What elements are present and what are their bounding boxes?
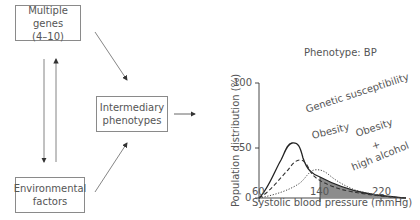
x-tick-60: 60 <box>252 186 265 197</box>
diagram-canvas <box>0 0 420 220</box>
y-tick-0: 0 <box>245 192 251 203</box>
x-tick-140: 140 <box>310 186 329 197</box>
y-axis-label: Population distribution (%) <box>230 74 241 207</box>
x-tick-220: 220 <box>372 186 391 197</box>
shaded-high-bp-region <box>320 177 406 198</box>
arrow-environment-to-intermediary <box>95 143 127 192</box>
arrow-genes-to-intermediary <box>95 32 127 80</box>
x-axis-label: Systolic blood pressure (mmHg) <box>252 197 412 208</box>
chart-title: Phenotype: BP <box>304 47 377 58</box>
